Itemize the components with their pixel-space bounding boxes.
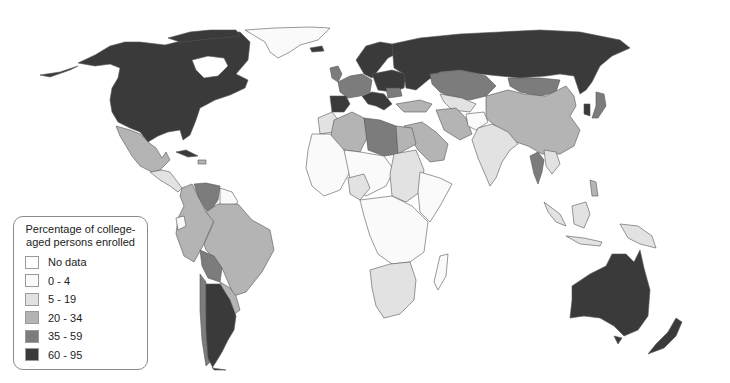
legend-label: 5 - 19 (48, 293, 76, 305)
region-cuba (176, 150, 198, 157)
region-thailand (530, 152, 544, 184)
legend-item-0-4: 0 - 4 (22, 272, 139, 291)
legend-swatch (25, 348, 39, 361)
legend-swatch (25, 293, 39, 306)
region-north-america (78, 32, 250, 142)
region-malaysia-indonesia (544, 202, 566, 226)
legend-item-no-data: No data (22, 253, 139, 272)
region-borneo (572, 202, 590, 228)
region-uk (330, 66, 342, 82)
legend-swatch (25, 256, 39, 269)
region-philippines (590, 180, 598, 196)
region-new-zealand (648, 318, 682, 354)
region-korea (584, 104, 590, 116)
legend-label: No data (48, 256, 87, 268)
region-horn-africa (418, 172, 452, 222)
region-new-guinea (620, 224, 656, 248)
legend-item-35-59: 35 - 59 (22, 327, 139, 346)
region-madagascar (434, 254, 448, 290)
legend-title: Percentage of college-aged persons enrol… (22, 223, 139, 248)
legend-label: 20 - 34 (48, 312, 82, 324)
region-libya (364, 118, 398, 156)
region-hispaniola (198, 160, 206, 164)
region-iceland (310, 46, 324, 52)
region-iran (436, 108, 472, 140)
region-romania (386, 88, 402, 98)
legend-label: 0 - 4 (48, 275, 70, 287)
region-indonesia-java (566, 236, 602, 246)
region-central-america (150, 170, 182, 192)
region-greenland (245, 27, 330, 58)
region-australia (570, 250, 650, 336)
region-alaska-chain (40, 66, 78, 77)
region-turkey (396, 100, 432, 112)
legend-label: 35 - 59 (48, 330, 82, 342)
region-tasmania (614, 336, 622, 344)
legend-item-20-34: 20 - 34 (22, 309, 139, 328)
region-spain (330, 96, 350, 112)
region-japan (592, 92, 606, 118)
map-legend: Percentage of college-aged persons enrol… (13, 216, 148, 370)
legend-item-5-19: 5 - 19 (22, 290, 139, 309)
legend-swatch (25, 311, 39, 324)
legend-label: 60 - 95 (48, 349, 82, 361)
region-brazil (204, 204, 274, 296)
legend-item-60-95: 60 - 95 (22, 346, 139, 365)
region-central-africa (360, 196, 428, 264)
region-southern-africa (370, 262, 416, 318)
legend-swatch (25, 274, 39, 287)
legend-swatch (25, 330, 39, 343)
